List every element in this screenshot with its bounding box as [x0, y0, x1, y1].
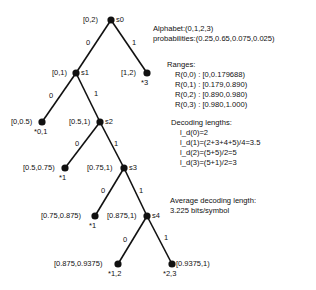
node-leaf-05-075 — [61, 164, 68, 171]
alphabet-block: Alphabet:(0,1,2,3) probabilities:(0.25,0… — [153, 24, 275, 44]
alphabet-text: Alphabet:(0,1,2,3) — [153, 24, 275, 34]
node-leaf-0-05 — [38, 118, 45, 125]
interval-label-leaf-0-05: [0,0.5) — [11, 117, 32, 126]
interval-label-leaf-05-075: [0.5,0.75) — [23, 163, 55, 172]
state-label-s4: s4 — [152, 211, 160, 220]
interval-label-s2: [0.5,1) — [69, 117, 90, 126]
state-label-s2: s2 — [105, 117, 113, 126]
node-s3 — [120, 164, 127, 171]
interval-label-s1: [0,1) — [52, 68, 67, 77]
range-item: R(0,1) : [0.179,0.890) — [167, 80, 247, 90]
range-item: R(0,2) : [0.890,0.980) — [167, 90, 247, 100]
ranges-block: Ranges: R(0,0) : [0,0.179688) R(0,1) : [… — [167, 60, 247, 110]
average-length-block: Average decoding length: 3.225 bits/symb… — [170, 196, 256, 216]
node-s1 — [72, 69, 79, 76]
decoding-item: l_d(0)=2 — [171, 128, 260, 138]
ranges-title: Ranges: — [167, 60, 247, 70]
interval-label-s0: [0,2) — [83, 15, 98, 24]
state-label-s3: s3 — [129, 163, 137, 172]
symbols-label-leaf-0-05: *0,1 — [34, 127, 47, 136]
edge-label-s0-1: 1 — [132, 38, 136, 47]
node-s4 — [143, 212, 150, 219]
node-leaf-075-0875 — [91, 212, 98, 219]
edge-label-s1-1: 1 — [94, 89, 98, 98]
decoding-item: l_d(2)=(5+5)/2=5 — [171, 148, 260, 158]
symbols-label-leaf-1-2: *3 — [141, 78, 148, 87]
symbols-label-leaf-05-075: *1 — [59, 173, 66, 182]
interval-label-s4: [0.875,1) — [107, 211, 137, 220]
symbols-label-leaf-075-0875: *1 — [89, 221, 96, 230]
decoding-item: l_d(1)=(2+3+4+5)/4=3.5 — [171, 138, 260, 148]
node-s2 — [96, 118, 103, 125]
node-leaf-1-2 — [143, 69, 150, 76]
decoding-title: Decoding lengths: — [171, 118, 260, 128]
edge-label-s3-0: 0 — [101, 186, 105, 195]
symbols-label-leaf-0875-09375: *1,2 — [108, 269, 121, 278]
interval-label-leaf-1-2: [1,2) — [121, 68, 136, 77]
edge-label-s4-1: 1 — [164, 233, 168, 242]
interval-label-leaf-075-0875: [0.75,0.875) — [41, 211, 81, 220]
edge-label-s2-1: 1 — [114, 139, 118, 148]
state-label-s0: s0 — [116, 15, 124, 24]
average-title: Average decoding length: — [170, 196, 256, 206]
range-item: R(0,3) : [0.980,1.000) — [167, 100, 247, 110]
average-value: 3.225 bits/symbol — [170, 206, 256, 216]
edge-label-s0-0: 0 — [86, 38, 90, 47]
state-label-s1: s1 — [81, 68, 89, 77]
decoding-item: l_d(3)=(5+1)/2=3 — [171, 158, 260, 168]
edge-label-s3-1: 1 — [139, 186, 143, 195]
probabilities-text: probabilities:(0.25,0.65,0.075,0.025) — [153, 34, 275, 44]
symbols-label-leaf-09375-1: *2,3 — [163, 269, 176, 278]
interval-label-s3: [0.75,1) — [87, 163, 112, 172]
interval-label-leaf-09375-1: [0.9375,1) — [176, 259, 210, 268]
node-s0 — [107, 16, 114, 23]
edge-label-s2-0: 0 — [75, 139, 79, 148]
edge-label-s1-0: 0 — [49, 91, 53, 100]
edge-label-s4-0: 0 — [123, 235, 127, 244]
range-item: R(0,0) : [0,0.179688) — [167, 70, 247, 80]
interval-label-leaf-0875-09375: [0.875,0.9375) — [54, 259, 102, 268]
node-leaf-09375-1 — [168, 260, 175, 267]
node-leaf-0875-09375 — [114, 260, 121, 267]
decoding-lengths-block: Decoding lengths: l_d(0)=2 l_d(1)=(2+3+4… — [171, 118, 260, 168]
